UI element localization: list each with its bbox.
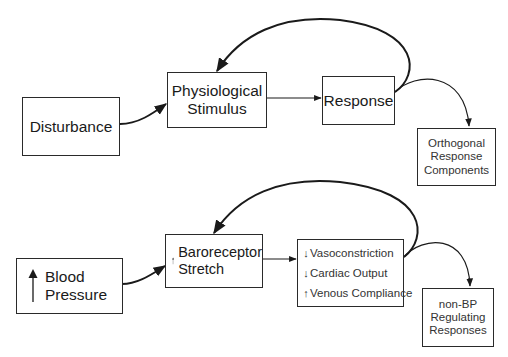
arrow-responses-to-nonbp [404, 243, 470, 286]
nonbp-line1: non-BP [439, 298, 477, 311]
blood-pressure-box: Blood Pressure [16, 258, 123, 314]
stimulus-line2: Stimulus [187, 100, 246, 118]
baroreceptor-line1: Baroreceptor [178, 244, 262, 261]
response-item-venous-compliance: ↑Venous Compliance [302, 283, 412, 303]
arrow-up-icon [27, 269, 39, 303]
arrow-disturbance-to-stimulus [120, 104, 166, 124]
disturbance-label: Disturbance [30, 118, 113, 136]
stimulus-line1: Physiological [172, 82, 262, 100]
arrow-down-icon: ↓ [302, 263, 310, 283]
arrow-bp-to-baroreceptor [122, 266, 165, 284]
nonbp-line2: Regulating [431, 311, 486, 324]
disturbance-box: Disturbance [22, 97, 120, 156]
response-box: Response [322, 76, 395, 125]
baroreceptor-stretch-box: Baroreceptor Stretch [165, 234, 263, 288]
arrow-up-icon: ↑ [302, 283, 310, 303]
non-bp-responses-box: non-BP Regulating Responses [422, 288, 494, 347]
response-item-vasoconstriction: ↓Vasoconstriction [302, 243, 394, 263]
arrow-up-icon [172, 245, 174, 277]
orthogonal-line3: Components [424, 164, 489, 177]
bp-line2: Pressure [45, 286, 107, 304]
bp-line1: Blood [45, 268, 107, 286]
orthogonal-line2: Response [431, 150, 483, 163]
arrow-down-icon: ↓ [302, 243, 310, 263]
orthogonal-line1: Orthogonal [428, 137, 485, 150]
arrow-response-to-orthogonal [395, 79, 469, 126]
baroreceptor-line2: Stretch [178, 261, 262, 278]
physiological-stimulus-box: Physiological Stimulus [167, 72, 267, 128]
reflex-responses-box: ↓Vasoconstriction ↓Cardiac Output ↑Venou… [297, 239, 404, 307]
response-item-cardiac-output: ↓Cardiac Output [302, 263, 387, 283]
nonbp-line3: Responses [429, 324, 487, 337]
orthogonal-response-box: Orthogonal Response Components [417, 128, 496, 186]
response-label: Response [324, 92, 394, 110]
